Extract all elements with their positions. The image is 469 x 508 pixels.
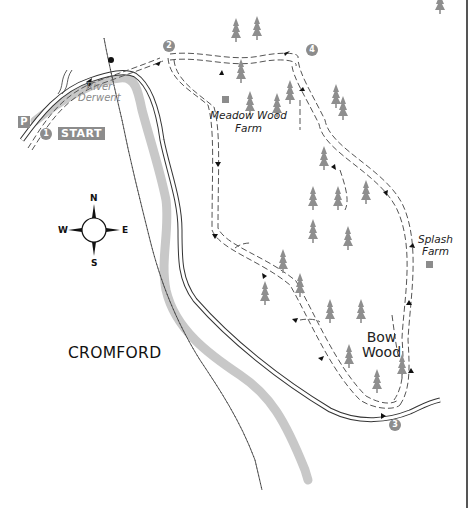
bow-wood-line1: Bow: [362, 330, 401, 345]
meadow-wood-farm-building: [222, 96, 229, 103]
compass-south: S: [91, 259, 97, 268]
compass-north: N: [90, 194, 98, 203]
compass-rose-icon: [68, 204, 120, 256]
waypoint-2: 2: [163, 40, 175, 52]
meadow-farm-line2: Farm: [210, 123, 287, 134]
map-border: [466, 0, 468, 508]
start-badge: START: [58, 127, 105, 140]
route-map: [0, 0, 469, 508]
river-label-line2: Derwent: [78, 93, 121, 103]
waypoint-1: 1: [40, 128, 52, 140]
cromford-label: CROMFORD: [68, 346, 161, 362]
waypoint-3: 3: [389, 419, 401, 431]
splash-farm-label: Splash Farm: [418, 234, 453, 256]
splash-farm-line1: Splash: [418, 234, 453, 245]
river-label: River Derwent: [78, 82, 121, 103]
trees: [231, 0, 445, 393]
compass-west: W: [58, 226, 68, 235]
meadow-wood-farm-label: Meadow Wood Farm: [210, 110, 287, 133]
bow-wood-label: Bow Wood: [362, 330, 401, 359]
splash-farm-building: [426, 261, 433, 268]
splash-farm-line2: Farm: [418, 246, 453, 257]
bow-wood-line2: Wood: [362, 345, 401, 360]
waypoint-4: 4: [306, 44, 318, 56]
compass-east: E: [122, 226, 128, 235]
parking-icon: P: [18, 116, 30, 128]
meadow-farm-line1: Meadow Wood: [210, 110, 287, 121]
river-label-line1: River: [78, 82, 121, 92]
